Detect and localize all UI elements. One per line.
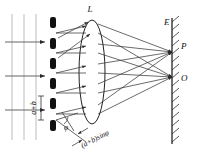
point-p-label: P: [180, 41, 187, 51]
grating-period-label: a+b: [29, 101, 38, 114]
path-difference-label: (a+b)sinφ: [79, 128, 110, 149]
point-o-label: O: [181, 73, 188, 83]
incident-wavefronts: [12, 14, 36, 140]
incident-ray-arrows: [5, 42, 45, 110]
screen-label: E: [163, 17, 170, 27]
diffraction-grating: [50, 17, 56, 131]
angle-label: φ: [64, 123, 68, 132]
lens-label: L: [86, 4, 92, 14]
grating-period-marker: [38, 96, 44, 120]
screen-hatching: [172, 16, 179, 142]
optics-diagram: a+b L: [0, 0, 206, 149]
rays-lens-to-point-p: [98, 24, 172, 105]
lens: [79, 20, 105, 124]
